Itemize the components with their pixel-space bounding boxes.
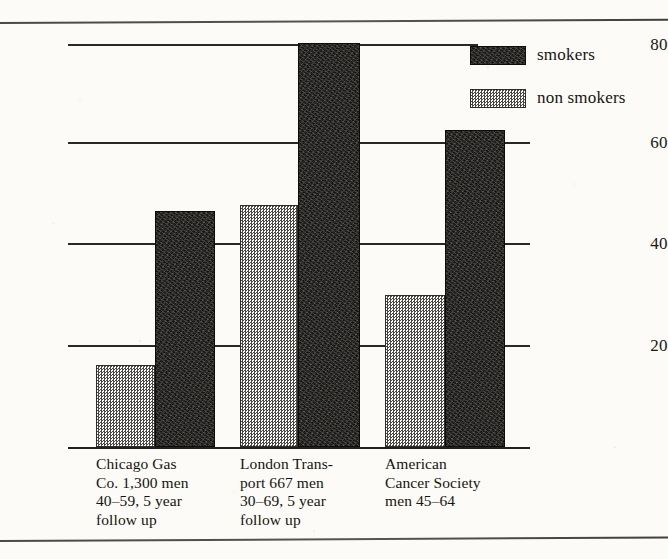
- category-line: 40–59, 5 year: [96, 492, 236, 511]
- chart-legend: smokers non smokers: [470, 44, 660, 130]
- bar-chicago-non-smokers: [96, 365, 155, 447]
- bar-acs-non-smokers: [385, 295, 445, 447]
- category-line: Cancer Society: [385, 474, 535, 493]
- x-axis-baseline: [68, 447, 530, 449]
- bar-chart: 80 60 40 20 Chicago Gas Co. 1,300 men 40…: [0, 0, 668, 559]
- y-axis-tick-20: 20: [622, 337, 668, 354]
- category-line: follow up: [96, 511, 236, 530]
- category-label-chicago-gas: Chicago Gas Co. 1,300 men 40–59, 5 year …: [96, 455, 236, 529]
- legend-item-non-smokers: non smokers: [470, 87, 660, 109]
- category-line: men 45–64: [385, 492, 535, 511]
- category-line: American: [385, 455, 535, 474]
- bar-london-smokers: [298, 43, 360, 447]
- category-line: 30–69, 5 year: [240, 492, 385, 511]
- category-label-london-transport: London Trans- port 667 men 30–69, 5 year…: [240, 455, 385, 529]
- bar-acs-smokers: [445, 130, 505, 447]
- legend-swatch-smokers-icon: [470, 46, 526, 65]
- category-label-american-cancer-society: American Cancer Society men 45–64: [385, 455, 535, 511]
- category-line: follow up: [240, 511, 385, 530]
- gridline-80: [68, 44, 478, 46]
- category-line: port 667 men: [240, 474, 385, 493]
- legend-label-smokers: smokers: [537, 45, 595, 65]
- legend-swatch-non-smokers-icon: [470, 89, 526, 108]
- bar-london-non-smokers: [240, 205, 298, 447]
- category-line: London Trans-: [240, 455, 385, 474]
- y-axis-tick-40: 40: [622, 235, 668, 252]
- y-axis-tick-60: 60: [622, 134, 668, 151]
- legend-item-smokers: smokers: [470, 44, 660, 66]
- legend-label-non-smokers: non smokers: [537, 88, 626, 108]
- category-line: Chicago Gas: [96, 455, 236, 474]
- category-line: Co. 1,300 men: [96, 474, 236, 493]
- bar-chicago-smokers: [155, 211, 215, 447]
